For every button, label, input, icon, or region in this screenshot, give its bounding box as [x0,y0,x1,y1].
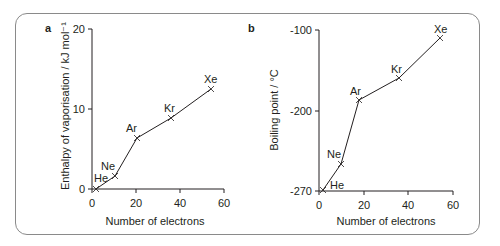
chart-b-xtick: 0 [316,199,322,211]
chart-b-line [323,38,440,190]
chart-a-ytick: 10 [73,103,85,115]
chart-a-point-label: Ar [126,122,137,134]
chart-b-xtick: 40 [402,199,414,211]
chart-b-point-label: Ne [327,148,341,160]
panel-label-a: a [45,22,52,34]
chart-a-point-label: Xe [204,73,217,85]
chart-a-xtick: 40 [174,197,186,209]
chart-b-xlabel: Number of electrons [336,215,436,227]
chart-b-ytick: -200 [290,105,312,117]
chart-b-ylabel: Boiling point / °C [268,69,280,150]
chart-b [315,30,453,195]
chart-a-point-label: Ne [101,160,115,172]
chart-a-xlabel: Number of electrons [105,215,205,227]
chart-a-xtick: 60 [218,197,230,209]
chart-b-xtick: 60 [447,199,459,211]
chart-a-ytick: 20 [73,23,85,35]
chart-b-xtick: 20 [358,199,370,211]
charts-svg: a 20 10 0 0 20 40 60 Number of electrons… [0,0,500,246]
panel-label-b: b [248,22,255,34]
chart-b-point-label: Ar [350,85,361,97]
chart-a-xtick: 0 [89,197,95,209]
chart-a-xtick: 20 [130,197,142,209]
chart-a-ytick: 0 [79,183,85,195]
chart-b-ytick: -100 [290,24,312,36]
chart-b-point-label: Kr [391,63,402,75]
chart-b-point-label: He [330,179,344,191]
chart-b-point-label: Xe [434,23,447,35]
chart-a-point-label: He [94,172,108,184]
chart-a-ylabel: Enthalpy of vaporisation / kJ mol⁻¹ [59,22,71,190]
chart-a-point-label: Kr [164,102,175,114]
chart-a-markers [93,86,214,192]
chart-b-markers [320,35,443,193]
chart-b-ytick: -270 [290,185,312,197]
